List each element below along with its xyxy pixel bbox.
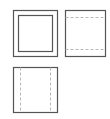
side-view[interactable] — [14, 68, 58, 113]
front-view-inner-rect — [19, 16, 53, 52]
front-view[interactable] — [14, 11, 58, 57]
drawing-svg — [0, 0, 110, 119]
top-view[interactable] — [66, 11, 106, 57]
orthographic-drawing-canvas — [0, 0, 110, 119]
